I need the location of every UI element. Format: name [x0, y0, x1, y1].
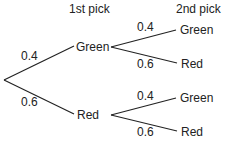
prob-red-green: 0.4 — [137, 90, 154, 102]
tree-branches — [0, 0, 226, 144]
outcome-red-green: Green — [180, 92, 213, 104]
prob-green: 0.4 — [21, 50, 38, 62]
branch-green — [4, 46, 74, 80]
prob-green-red: 0.6 — [137, 58, 154, 70]
header-second-pick: 2nd pick — [176, 3, 221, 15]
header-first-pick: 1st pick — [69, 3, 110, 15]
outcome-red-red: Red — [181, 126, 203, 138]
outcome-green-red: Red — [181, 58, 203, 70]
prob-red-red: 0.6 — [137, 126, 154, 138]
outcome-green-green: Green — [180, 24, 213, 36]
outcome-red: Red — [77, 109, 99, 121]
prob-green-green: 0.4 — [137, 21, 154, 33]
outcome-green: Green — [76, 41, 109, 53]
branch-red — [4, 80, 74, 114]
prob-red: 0.6 — [21, 96, 38, 108]
